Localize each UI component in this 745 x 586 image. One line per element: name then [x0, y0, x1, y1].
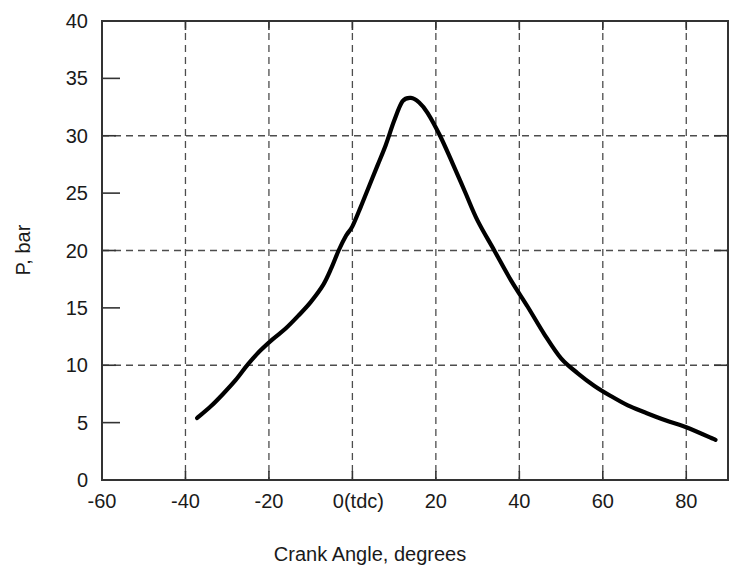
- x-tick-label: 80: [675, 490, 697, 512]
- y-tick-label: 10: [66, 354, 88, 376]
- y-tick-label: 35: [66, 67, 88, 89]
- y-tick-label: 20: [66, 240, 88, 262]
- x-tick-label: 20: [425, 490, 447, 512]
- y-tick-label: 5: [77, 412, 88, 434]
- x-tick-label: -40: [171, 490, 200, 512]
- x-tick-label: 60: [592, 490, 614, 512]
- x-axis-title: Crank Angle, degrees: [274, 543, 466, 565]
- pressure-vs-crank-angle-chart: -60-40-200(tdc)20406080 0510152025303540…: [0, 0, 745, 586]
- y-tick-label: 40: [66, 10, 88, 32]
- y-tick-label: 15: [66, 297, 88, 319]
- chart-figure: -60-40-200(tdc)20406080 0510152025303540…: [0, 0, 745, 586]
- x-tick-label: -20: [254, 490, 283, 512]
- y-tick-label: 0: [77, 469, 88, 491]
- y-tick-label: 30: [66, 125, 88, 147]
- x-tick-label: -60: [88, 490, 117, 512]
- x-tick-label: 0(tdc): [333, 490, 384, 512]
- y-tick-label: 25: [66, 182, 88, 204]
- x-tick-label: 40: [508, 490, 530, 512]
- y-axis-title: P, bar: [12, 224, 34, 275]
